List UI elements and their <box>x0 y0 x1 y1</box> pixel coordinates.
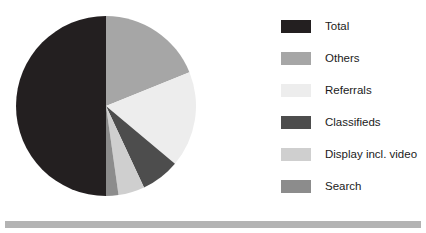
chart-legend: Total Others Referrals Classifieds Displ… <box>281 10 421 202</box>
legend-swatch-classifieds <box>281 116 311 129</box>
legend-item-others[interactable]: Others <box>281 42 421 74</box>
legend-label-display-incl-video: Display incl. video <box>325 148 417 161</box>
legend-swatch-search <box>281 180 311 193</box>
legend-label-referrals: Referrals <box>325 84 372 97</box>
legend-label-others: Others <box>325 52 360 65</box>
legend-swatch-others <box>281 52 311 65</box>
legend-swatch-total <box>281 20 311 33</box>
footer-divider-bar <box>5 221 421 228</box>
legend-swatch-referrals <box>281 84 311 97</box>
pie-svg <box>16 16 196 196</box>
legend-label-classifieds: Classifieds <box>325 116 381 129</box>
legend-swatch-display-incl-video <box>281 148 311 161</box>
pie-slice-group <box>16 16 196 196</box>
pie-chart-plot <box>16 16 196 196</box>
legend-item-total[interactable]: Total <box>281 10 421 42</box>
pie-slice[interactable] <box>16 16 106 196</box>
legend-item-classifieds[interactable]: Classifieds <box>281 106 421 138</box>
legend-item-referrals[interactable]: Referrals <box>281 74 421 106</box>
legend-label-search: Search <box>325 180 361 193</box>
legend-item-display-incl-video[interactable]: Display incl. video <box>281 138 421 170</box>
legend-label-total: Total <box>325 20 349 33</box>
pie-chart-figure: Total Others Referrals Classifieds Displ… <box>0 0 426 233</box>
legend-item-search[interactable]: Search <box>281 170 421 202</box>
